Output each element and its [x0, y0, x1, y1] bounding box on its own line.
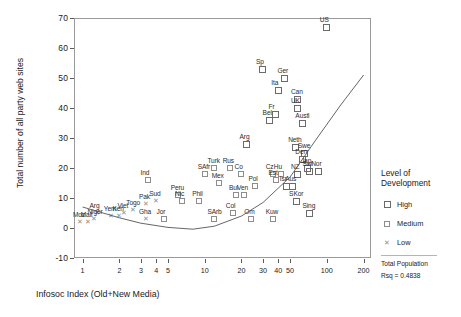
- data-point[interactable]: [238, 171, 244, 177]
- data-point[interactable]: [216, 180, 222, 186]
- high-square-icon: [381, 201, 393, 208]
- data-point[interactable]: [241, 192, 247, 198]
- data-point-label: Kuw: [266, 208, 279, 215]
- data-point-label: Austl: [295, 112, 309, 119]
- data-point-label: Ven: [237, 184, 248, 191]
- data-point[interactable]: [227, 165, 233, 171]
- x-tick-mark: [263, 259, 264, 263]
- data-point[interactable]: [281, 75, 288, 82]
- data-point[interactable]: ✕: [130, 207, 136, 213]
- x-tick-10: 10: [195, 266, 215, 275]
- data-point-label: Ind: [141, 169, 150, 176]
- data-point-label: Rus: [223, 157, 234, 164]
- legend-label-low: Low: [397, 238, 411, 247]
- data-point-label: Ita: [271, 79, 278, 86]
- legend: Level of Development High Medium ✕ Low T…: [381, 168, 461, 284]
- medium-square-icon: [381, 221, 393, 227]
- data-point[interactable]: [306, 168, 313, 175]
- data-point-label: SArb: [207, 208, 221, 215]
- x-tick-50: 50: [280, 266, 300, 275]
- x-tick-mark: [83, 259, 84, 263]
- data-point-label: Jor: [157, 208, 166, 215]
- data-point-label: Nic: [175, 190, 184, 197]
- data-point[interactable]: [275, 87, 282, 94]
- cross-icon: ✕: [381, 240, 393, 246]
- data-point[interactable]: [294, 105, 301, 112]
- data-point-label: UK: [291, 97, 300, 104]
- data-point[interactable]: [145, 177, 151, 183]
- y-tick-30: 30: [42, 133, 68, 143]
- data-point[interactable]: [179, 198, 185, 204]
- data-point[interactable]: ✕: [143, 216, 149, 222]
- data-point-label: Aus: [285, 175, 296, 182]
- data-point[interactable]: [252, 183, 258, 189]
- legend-item-low[interactable]: ✕ Low: [381, 235, 461, 250]
- data-point[interactable]: [323, 24, 330, 31]
- y-tick-mark: [70, 228, 74, 229]
- y-tick-70: 70: [42, 13, 68, 23]
- data-point[interactable]: [230, 210, 236, 216]
- y-tick-10: 10: [42, 193, 68, 203]
- legend-note-rsq: Rsq = 0.4838: [381, 272, 461, 279]
- data-point[interactable]: [211, 216, 217, 222]
- data-point-label: SAfr: [198, 163, 210, 170]
- y-tick-mark: [70, 138, 74, 139]
- x-tick-mark: [119, 259, 120, 263]
- data-point[interactable]: [270, 216, 276, 222]
- legend-item-medium[interactable]: Medium: [381, 216, 461, 231]
- y-tick-60: 60: [42, 43, 68, 53]
- legend-item-high[interactable]: High: [381, 197, 461, 212]
- data-point-label: Phil: [192, 190, 203, 197]
- data-point[interactable]: [202, 171, 208, 177]
- data-point[interactable]: ✕: [116, 213, 122, 219]
- legend-note-total-population: Total Population: [381, 260, 461, 267]
- data-point[interactable]: [273, 177, 279, 183]
- data-point[interactable]: [248, 216, 254, 222]
- data-point-label: NZ: [291, 163, 300, 170]
- y-tick-20: 20: [42, 163, 68, 173]
- y-tick-mark: [70, 18, 74, 19]
- y-axis-title: Total number of all party web sites: [15, 23, 25, 223]
- data-point[interactable]: [293, 198, 300, 205]
- x-tick-100: 100: [317, 266, 337, 275]
- data-point-label: Ger: [277, 67, 288, 74]
- data-point[interactable]: [289, 183, 296, 190]
- y-tick-mark: [70, 258, 74, 259]
- data-point-label: Est: [269, 169, 278, 176]
- data-point[interactable]: ✕: [85, 219, 91, 225]
- data-point-label: Moz: [73, 211, 85, 218]
- x-tick-5: 5: [158, 266, 178, 275]
- data-point[interactable]: [315, 168, 322, 175]
- x-tick-mark: [278, 259, 279, 263]
- data-point-label: Ken: [112, 205, 123, 212]
- data-point-label: Pak: [139, 193, 150, 200]
- data-point-label: SKor: [289, 190, 303, 197]
- y-tick-mark: [70, 108, 74, 109]
- data-point-label: Can: [291, 88, 303, 95]
- y-tick-mark: [70, 48, 74, 49]
- data-point[interactable]: ✕: [153, 198, 159, 204]
- data-point[interactable]: [299, 120, 306, 127]
- scatter-chart: -10010203040506070 123451020304050100200…: [0, 0, 461, 317]
- data-point[interactable]: [306, 210, 313, 217]
- data-point-label: Bel: [263, 109, 272, 116]
- data-point[interactable]: [259, 66, 266, 73]
- data-point[interactable]: [243, 141, 250, 148]
- x-tick-mark: [156, 259, 157, 263]
- data-point[interactable]: [211, 165, 217, 171]
- data-point[interactable]: ✕: [108, 213, 114, 219]
- data-point[interactable]: ✕: [143, 201, 149, 207]
- x-tick-mark: [141, 259, 142, 263]
- data-point[interactable]: [161, 216, 167, 222]
- x-tick-200: 200: [354, 266, 374, 275]
- data-point[interactable]: [266, 117, 273, 124]
- data-point-label: Sing: [302, 202, 315, 209]
- data-point-label: Mex: [212, 172, 224, 179]
- data-point-label: Gha: [139, 208, 151, 215]
- data-point[interactable]: [196, 198, 202, 204]
- data-point[interactable]: ✕: [77, 219, 83, 225]
- x-tick-mark: [205, 259, 206, 263]
- y-tick--10: -10: [42, 253, 68, 263]
- data-point[interactable]: [233, 192, 239, 198]
- y-tick-0: 0: [42, 223, 68, 233]
